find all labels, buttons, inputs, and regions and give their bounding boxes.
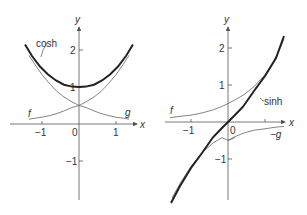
right-neg-g-label: −g	[270, 129, 282, 140]
right-y-tick-2: 2	[219, 43, 225, 54]
right-x-tick-neg1: −1	[183, 125, 195, 136]
right-f-label: f	[170, 105, 174, 116]
left-y-tick-2: 2	[70, 45, 76, 56]
right-x-axis-label: x	[288, 117, 295, 128]
left-x-tick-1: 1	[113, 127, 119, 138]
sinh-label: sinh	[264, 96, 282, 107]
left-f-label: f	[28, 108, 32, 119]
right-curve-sinh	[171, 36, 284, 203]
left-y-axis-label: y	[74, 14, 81, 25]
left-y-tick-neg1: −1	[66, 156, 78, 167]
right-plot-sinh: y x −1 0 2 1 −1 sinh f −g	[165, 14, 295, 203]
left-plot-cosh: y x −1 0 1 2 1 −1 cosh f g	[10, 14, 146, 200]
right-y-axis-label: y	[223, 14, 230, 25]
right-x-tick-0: 0	[230, 125, 236, 136]
right-y-tick-neg1: −1	[215, 154, 227, 165]
cosh-label: cosh	[36, 38, 57, 49]
left-x-axis-label: x	[139, 119, 146, 130]
left-x-tick-neg1: −1	[35, 127, 47, 138]
right-curve-neg-g	[172, 138, 235, 199]
left-g-label: g	[125, 107, 131, 118]
hyperbolic-functions-diagram: y x −1 0 1 2 1 −1 cosh f g y x −1 0 2 1 …	[0, 0, 307, 215]
left-x-tick-0: 0	[72, 127, 78, 138]
right-y-tick-1: 1	[219, 80, 225, 91]
